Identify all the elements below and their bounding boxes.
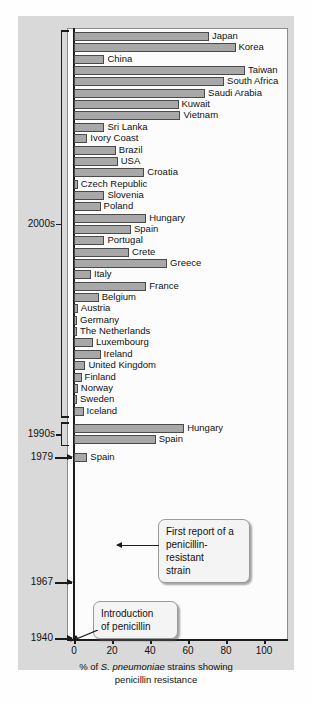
x-axis-title-pre: % of bbox=[79, 661, 101, 672]
bar-label: Spain bbox=[134, 223, 158, 234]
bar bbox=[74, 32, 209, 41]
bar bbox=[74, 435, 156, 444]
bar bbox=[74, 43, 236, 52]
bar bbox=[74, 327, 77, 336]
bar bbox=[74, 395, 77, 404]
bar-label: Germany bbox=[80, 314, 119, 325]
bar bbox=[74, 282, 146, 291]
bar-label: Luxembourg bbox=[96, 336, 149, 347]
bar-label: Korea bbox=[239, 41, 264, 52]
bar-label: Czech Republic bbox=[81, 178, 148, 189]
bar bbox=[74, 168, 144, 177]
x-tick-label: 40 bbox=[135, 645, 165, 656]
bar-label: United Kingdom bbox=[88, 359, 156, 370]
bar bbox=[74, 248, 129, 257]
bar bbox=[74, 453, 87, 462]
bar-label: Hungary bbox=[187, 422, 223, 433]
bar bbox=[74, 111, 180, 120]
bar bbox=[74, 259, 167, 268]
x-tick bbox=[264, 639, 266, 644]
bar bbox=[74, 100, 179, 109]
bar-label: Norway bbox=[81, 382, 113, 393]
bar bbox=[74, 66, 245, 75]
annotation-introduction: Introduction of penicillin bbox=[93, 601, 178, 639]
annotation-first-report-line2: penicillin-resistant bbox=[166, 538, 242, 564]
year-2000s-bracket bbox=[61, 30, 69, 418]
annotation-first-report-leader bbox=[117, 545, 159, 546]
x-tick-label: 20 bbox=[97, 645, 127, 656]
annotation-introduction-line1: Introduction bbox=[101, 607, 170, 620]
bar bbox=[74, 225, 131, 234]
annotation-introduction-leader bbox=[70, 630, 100, 642]
bar bbox=[74, 89, 205, 98]
bar-label: USA bbox=[121, 155, 141, 166]
bar-label: Croatia bbox=[147, 166, 178, 177]
year-1979-arrow bbox=[55, 457, 72, 459]
x-tick bbox=[150, 639, 152, 644]
x-tick-label: 60 bbox=[173, 645, 203, 656]
bar-label: Sweden bbox=[80, 393, 114, 404]
bar-label: Greece bbox=[170, 257, 201, 268]
bar bbox=[74, 338, 93, 347]
year-1990s-bracket bbox=[61, 422, 69, 446]
bar bbox=[74, 384, 78, 393]
bar-label: Japan bbox=[212, 30, 238, 41]
year-2000s-bracket-stem bbox=[56, 224, 62, 226]
year-1990s-label: 1990s bbox=[10, 428, 55, 439]
bar bbox=[74, 407, 84, 416]
bar-label: The Netherlands bbox=[80, 325, 150, 336]
year-2000s-label: 2000s bbox=[10, 218, 55, 229]
bar bbox=[74, 373, 82, 382]
bar-label: Crete bbox=[132, 246, 155, 257]
bar-label: Hungary bbox=[149, 212, 185, 223]
x-tick-label: 80 bbox=[211, 645, 241, 656]
bar bbox=[74, 316, 77, 325]
chart-figure: JapanKoreaChinaTaiwanSouth AfricaSaudi A… bbox=[0, 0, 312, 705]
bar bbox=[74, 202, 101, 211]
bar-label: Taiwan bbox=[248, 64, 278, 75]
bar-label: China bbox=[107, 53, 132, 64]
bar-label: Belgium bbox=[102, 291, 136, 302]
bar-label: Austria bbox=[81, 302, 111, 313]
x-axis-title: % of S. pneumoniae strains showing penic… bbox=[18, 660, 294, 686]
annotation-first-report: First report of a penicillin-resistant s… bbox=[158, 519, 250, 583]
bar-label: Vietnam bbox=[183, 109, 218, 120]
x-tick bbox=[112, 639, 114, 644]
bar bbox=[74, 146, 116, 155]
year-1990s-bracket-stem bbox=[56, 434, 62, 436]
bar-label: Kuwait bbox=[182, 98, 211, 109]
bar-label: France bbox=[149, 280, 179, 291]
x-tick bbox=[188, 639, 190, 644]
bar-label: Portugal bbox=[107, 234, 142, 245]
x-tick bbox=[226, 639, 228, 644]
x-axis-title-line2: penicillin resistance bbox=[115, 674, 197, 685]
bar-label: Brazil bbox=[119, 144, 143, 155]
bar bbox=[74, 350, 101, 359]
bar bbox=[74, 270, 91, 279]
x-axis-title-species: S. pneumoniae bbox=[101, 661, 165, 672]
x-axis-title-post: strains showing bbox=[165, 661, 233, 672]
bar-label: Ivory Coast bbox=[90, 132, 138, 143]
year-1940-label: 1940 bbox=[8, 632, 53, 643]
bar bbox=[74, 214, 146, 223]
bar bbox=[74, 361, 85, 370]
bar-label: Finland bbox=[85, 371, 116, 382]
bar bbox=[74, 191, 104, 200]
bar-label: Sri Lanka bbox=[107, 121, 147, 132]
bar bbox=[74, 55, 104, 64]
x-axis-line bbox=[67, 639, 288, 641]
bar-label: Slovenia bbox=[107, 189, 143, 200]
year-1967-label: 1967 bbox=[8, 576, 53, 587]
bar bbox=[74, 77, 224, 86]
bar bbox=[74, 157, 118, 166]
bar bbox=[74, 134, 87, 143]
x-tick-label: 100 bbox=[249, 645, 279, 656]
bar-label: Iceland bbox=[87, 405, 118, 416]
bar-label: Poland bbox=[104, 200, 134, 211]
bar-label: Spain bbox=[159, 433, 183, 444]
bar-label: Italy bbox=[94, 268, 111, 279]
bar-label: South Africa bbox=[227, 75, 278, 86]
year-1967-arrow bbox=[55, 582, 72, 584]
bar bbox=[74, 236, 104, 245]
bar bbox=[74, 123, 104, 132]
